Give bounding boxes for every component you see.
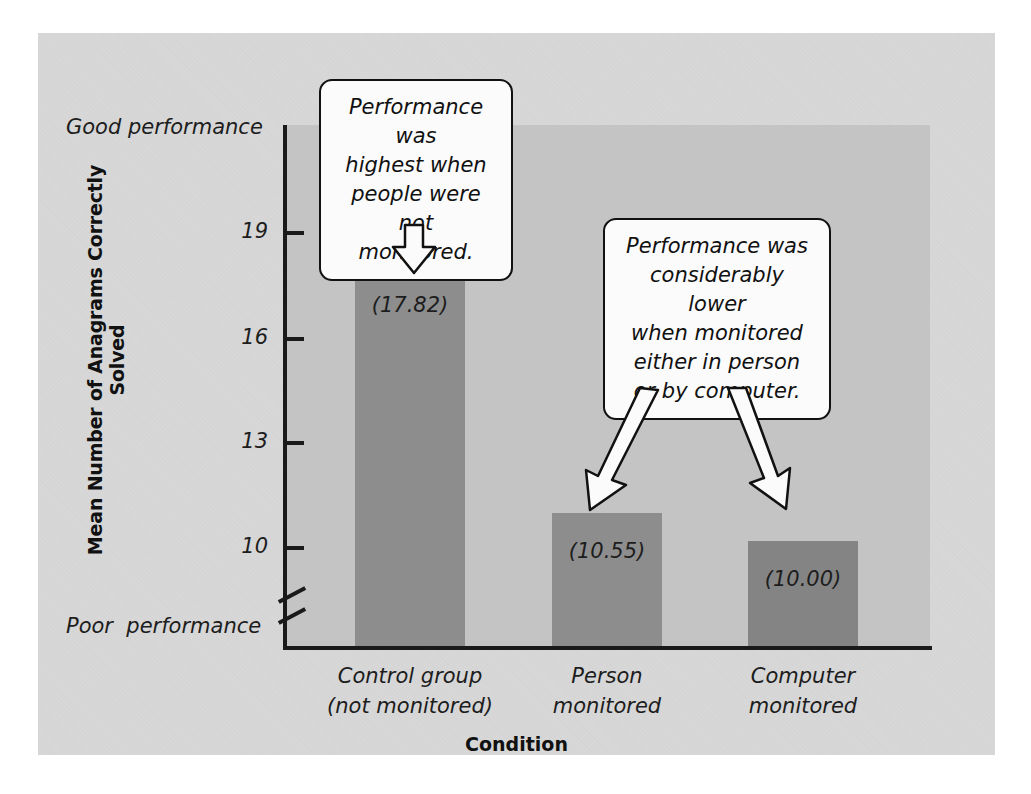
bar-control-group: (17.82)	[355, 267, 465, 646]
x-label-person-monitored: Person monitored	[512, 661, 702, 721]
y-tick-label-13: 13	[208, 429, 268, 453]
bar-value-control-group: (17.82)	[355, 293, 465, 317]
bar-computer-monitored: (10.00)	[748, 541, 858, 646]
x-label-person-monitored-line2: monitored	[512, 691, 702, 721]
y-tick-13	[287, 441, 304, 445]
callout-monitored-arrow-left-icon	[578, 388, 668, 513]
y-tick-label-10: 10	[208, 534, 268, 558]
y-tick-label-16: 16	[208, 325, 268, 349]
y-tick-19	[287, 231, 304, 235]
bar-value-computer-monitored: (10.00)	[748, 567, 858, 591]
callout-control-arrow-icon	[393, 225, 453, 277]
callout-control-line1: Performance was	[335, 93, 497, 151]
callout-control-line2: highest when	[335, 151, 497, 180]
y-axis-line	[283, 125, 287, 650]
callout-monitored-line1: Performance was	[619, 232, 815, 261]
x-axis-title: Condition	[38, 733, 995, 755]
callout-monitored-line3: when monitored	[619, 319, 815, 348]
x-label-computer-monitored-line2: monitored	[708, 691, 898, 721]
bar-person-monitored: (10.55)	[552, 513, 662, 646]
x-label-control-group: Control group (not monitored)	[315, 661, 505, 721]
x-label-control-group-line2: (not monitored)	[315, 691, 505, 721]
y-axis-title: Mean Number of Anagrams Correctly Solved	[84, 150, 128, 570]
callout-monitored-arrow-right-icon	[718, 388, 818, 513]
x-label-computer-monitored-line1: Computer	[708, 661, 898, 691]
x-label-computer-monitored: Computer monitored	[708, 661, 898, 721]
bar-value-person-monitored: (10.55)	[552, 539, 662, 563]
good-performance-label: Good performance	[66, 115, 263, 139]
y-tick-10	[287, 546, 304, 550]
figure-panel: 19 16 13 10 Good performance Poor perfor…	[38, 33, 995, 755]
callout-monitored-line2: considerably lower	[619, 261, 815, 319]
y-tick-16	[287, 337, 304, 341]
x-axis-line	[283, 646, 932, 650]
poor-performance-label: Poor performance	[66, 614, 261, 638]
x-label-person-monitored-line1: Person	[512, 661, 702, 691]
x-label-control-group-line1: Control group	[315, 661, 505, 691]
y-tick-label-19: 19	[208, 219, 268, 243]
callout-monitored-line4: either in person	[619, 348, 815, 377]
